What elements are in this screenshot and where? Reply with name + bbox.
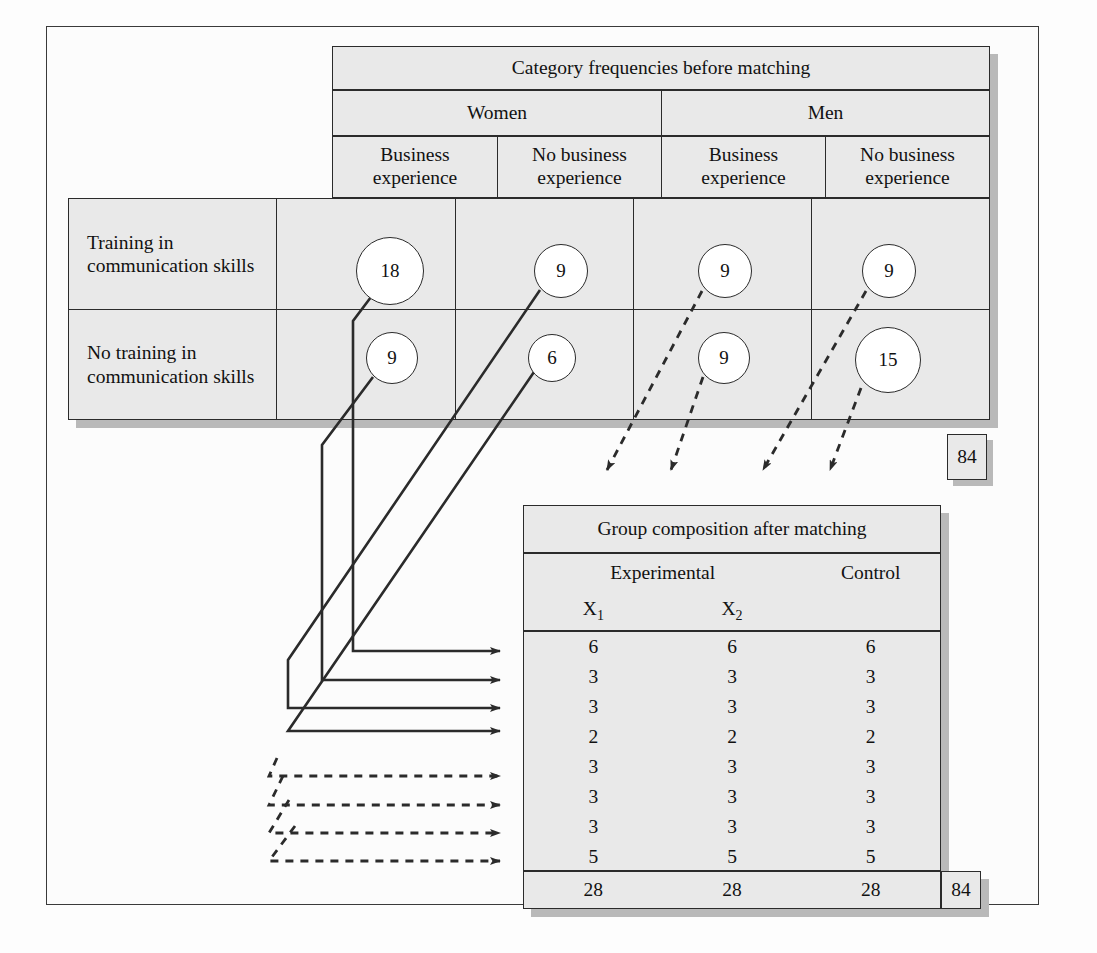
cell-control: 3 xyxy=(801,816,940,838)
freq-value: 15 xyxy=(879,349,898,371)
cell-x1: 3 xyxy=(524,666,663,688)
cell-x1: 6 xyxy=(524,636,663,658)
gender-header-men-label: Men xyxy=(808,102,844,125)
x2-subscript: 2 xyxy=(736,607,743,623)
top-table-body: Training in communication skills No trai… xyxy=(68,198,990,420)
bottom-header-group-row: Experimental Control xyxy=(524,554,940,592)
freq-circle-training-women-business: 18 xyxy=(356,237,424,305)
experience-header-men-business: Business experience xyxy=(661,137,825,197)
freq-value: 9 xyxy=(884,260,894,282)
column-header-x2-label: X2 xyxy=(721,598,742,623)
column-header-x2: X2 xyxy=(663,592,802,630)
experience-header-women-nobusiness-label: No business experience xyxy=(502,144,657,189)
bottom-table-grand-total-value: 84 xyxy=(951,879,971,901)
cell-x2: 5 xyxy=(663,846,802,868)
bottom-header-variable-row: X1 X2 xyxy=(524,592,940,630)
freq-value: 9 xyxy=(720,260,730,282)
matching-design-figure: Category frequencies before matching Wom… xyxy=(0,0,1097,953)
total-control: 28 xyxy=(801,879,940,901)
cell-x2: 3 xyxy=(663,756,802,778)
cell-x1: 3 xyxy=(524,756,663,778)
freq-circle-training-women-nobusiness: 9 xyxy=(534,244,588,298)
cell-x2: 2 xyxy=(663,726,802,748)
cell-control: 3 xyxy=(801,786,940,808)
x1-subscript: 1 xyxy=(597,607,604,623)
cell-control: 3 xyxy=(801,666,940,688)
cell-x2: 3 xyxy=(663,816,802,838)
row-label-notraining: No training in communication skills xyxy=(69,310,277,419)
experience-header-men-nobusiness-label: No business experience xyxy=(830,144,985,189)
experience-header-women-nobusiness: No business experience xyxy=(497,137,661,197)
freq-value: 9 xyxy=(387,347,397,369)
gender-header-men: Men xyxy=(661,91,989,135)
freq-circle-notraining-women-business: 9 xyxy=(366,332,418,384)
freq-value: 6 xyxy=(547,347,557,369)
column-header-control-blank xyxy=(801,592,940,630)
cell-x1: 5 xyxy=(524,846,663,868)
total-x1: 28 xyxy=(524,879,663,901)
top-table-gender-header-row: Women Men xyxy=(332,90,990,136)
freq-circle-notraining-women-nobusiness: 6 xyxy=(528,334,576,382)
freq-value: 18 xyxy=(381,260,400,282)
cell-x1: 2 xyxy=(524,726,663,748)
cell-x2: 3 xyxy=(663,786,802,808)
cell-x2: 6 xyxy=(663,636,802,658)
gender-header-women-label: Women xyxy=(467,102,527,125)
table-row: Training in communication skills xyxy=(69,199,989,309)
column-header-x1-label: X1 xyxy=(583,598,604,623)
group-header-experimental-label: Experimental xyxy=(610,562,715,585)
column-header-x1: X1 xyxy=(524,592,663,630)
table-row: 5 5 5 xyxy=(524,842,940,872)
group-header-control: Control xyxy=(801,554,940,592)
cell-control: 5 xyxy=(801,846,940,868)
cell-x1: 3 xyxy=(524,696,663,718)
table-row: 6 6 6 xyxy=(524,632,940,662)
total-x2: 28 xyxy=(663,879,802,901)
table-row: 3 3 3 xyxy=(524,812,940,842)
top-table-grand-total: 84 xyxy=(947,434,987,480)
experience-header-women-business: Business experience xyxy=(333,137,497,197)
top-table-title-text: Category frequencies before matching xyxy=(512,57,810,80)
bottom-table-grand-total: 84 xyxy=(941,871,981,909)
bottom-table-title: Group composition after matching xyxy=(523,505,941,553)
experience-header-women-business-label: Business experience xyxy=(337,144,493,189)
group-header-experimental: Experimental xyxy=(524,554,801,592)
table-row: 3 3 3 xyxy=(524,752,940,782)
cell-x1: 3 xyxy=(524,816,663,838)
top-table-title: Category frequencies before matching xyxy=(332,46,990,90)
top-table-experience-header-row: Business experience No business experien… xyxy=(332,136,990,198)
row-label-training: Training in communication skills xyxy=(69,199,277,309)
table-row: 3 3 3 xyxy=(524,692,940,722)
cell-control: 3 xyxy=(801,756,940,778)
gender-header-women: Women xyxy=(333,91,661,135)
experience-header-men-nobusiness: No business experience xyxy=(825,137,989,197)
cell-x2: 3 xyxy=(663,666,802,688)
top-table-grand-total-value: 84 xyxy=(957,446,977,468)
cell-control: 3 xyxy=(801,696,940,718)
bottom-table-title-text: Group composition after matching xyxy=(597,518,866,541)
row-label-training-text: Training in communication skills xyxy=(87,231,276,278)
bottom-table-body: 6 6 6 3 3 3 3 3 3 2 2 2 3 3 3 3 3 3 xyxy=(523,631,941,871)
freq-circle-notraining-men-business: 9 xyxy=(698,332,750,384)
group-header-control-label: Control xyxy=(841,562,901,585)
experience-header-men-business-label: Business experience xyxy=(666,144,821,189)
freq-circle-notraining-men-nobusiness: 15 xyxy=(855,327,921,393)
table-row: 2 2 2 xyxy=(524,722,940,752)
freq-circle-training-men-business: 9 xyxy=(698,244,752,298)
freq-value: 9 xyxy=(556,260,566,282)
bottom-table-header: Experimental Control X1 X2 xyxy=(523,553,941,631)
bottom-table-totals-row: 28 28 28 xyxy=(523,871,941,909)
row-label-notraining-text: No training in communication skills xyxy=(87,341,276,388)
cell-control: 6 xyxy=(801,636,940,658)
freq-circle-training-men-nobusiness: 9 xyxy=(862,244,916,298)
table-row: 3 3 3 xyxy=(524,662,940,692)
cell-x1: 3 xyxy=(524,786,663,808)
cell-control: 2 xyxy=(801,726,940,748)
freq-value: 9 xyxy=(719,347,729,369)
cell-x2: 3 xyxy=(663,696,802,718)
table-row: 3 3 3 xyxy=(524,782,940,812)
